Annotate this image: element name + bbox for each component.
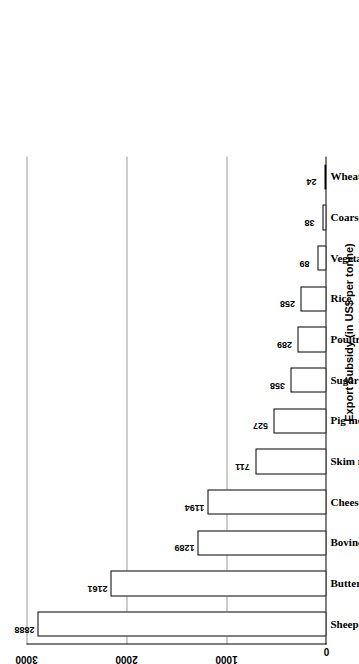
bar-value-label: 2161	[87, 583, 107, 593]
ytick-1000: 1000	[221, 648, 232, 664]
category-label: Sugar	[330, 373, 358, 385]
bar-value-label: 258	[280, 298, 295, 308]
bar-value-label: 89	[299, 258, 309, 268]
bar-sheep-meat: 2888	[26, 611, 326, 636]
bar-rect	[300, 286, 326, 311]
category-label: Wheat and wheat flour	[330, 169, 359, 181]
bar-poultry: 289	[26, 326, 326, 351]
bar-coarse-grains: 38	[26, 204, 326, 229]
bar-rect	[273, 408, 326, 433]
bar-butter-and-butter-oil: 2161	[26, 570, 326, 595]
bar-series: 2888216112891194711527358289258893824	[26, 156, 326, 644]
category-label: Coarse grains	[330, 210, 359, 222]
category-label: Pig meat	[330, 413, 359, 425]
bar-rect	[317, 245, 326, 270]
bar-value-label: 24	[306, 176, 316, 186]
category-axis-labels: Sheep meatButter and butter oilBovine me…	[326, 156, 327, 644]
bar-rect	[37, 611, 326, 636]
bar-value-label: 1194	[184, 502, 204, 512]
category-label: Cheese	[330, 495, 359, 507]
bar-value-label: 289	[277, 339, 292, 349]
bar-skim-milk-powder: 711	[26, 448, 326, 473]
plot-area: 3000 2000 1000 0 28882161128911947115273…	[26, 156, 326, 644]
ytick-2000: 2000	[121, 648, 132, 664]
bar-vegetable-oils: 89	[26, 245, 326, 270]
bar-rect	[110, 570, 326, 595]
bar-value-label: 358	[270, 380, 285, 390]
category-label: Rice	[330, 291, 351, 303]
bar-pig-meat: 527	[26, 408, 326, 433]
category-label: Poultry	[330, 332, 359, 344]
bar-rect	[290, 367, 326, 392]
bar-rect	[207, 489, 326, 514]
bar-value-label: 1289	[174, 542, 194, 552]
bar-wheat-and-wheat-flour: 24	[26, 164, 326, 189]
bar-rect	[297, 326, 326, 351]
ytick-3000: 3000	[21, 648, 32, 664]
bar-rect	[255, 448, 326, 473]
bar-rect	[197, 530, 326, 555]
bar-value-label: 38	[304, 217, 314, 227]
bar-value-label: 2888	[14, 624, 34, 634]
category-label: Sheep meat	[330, 617, 359, 629]
category-label: Skim milk powder	[330, 454, 359, 466]
bar-rect	[322, 204, 326, 229]
category-label: Bovine meat	[330, 535, 359, 547]
bar-value-label: 711	[235, 461, 250, 471]
ytick-0: 0	[321, 648, 332, 654]
bar-value-label: 527	[253, 420, 268, 430]
bar-bovine-meat: 1289	[26, 530, 326, 555]
category-label: Butter and butter oil	[330, 576, 359, 588]
bar-sugar: 358	[26, 367, 326, 392]
bar-rice: 258	[26, 286, 326, 311]
chart-canvas: Export Subsidy (in US$ per tonne) 3000 2…	[0, 0, 359, 664]
bar-cheese: 1194	[26, 489, 326, 514]
category-label: Vegetable oils	[330, 251, 359, 263]
